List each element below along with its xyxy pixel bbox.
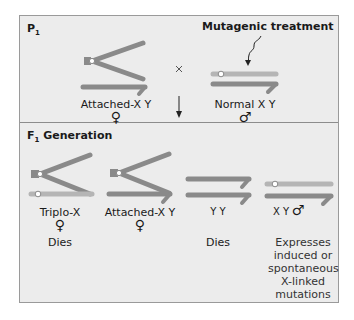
f1-xy-chromosomes	[267, 181, 331, 204]
female-symbol-icon: ♀	[130, 218, 150, 232]
fate-line: spontaneous	[268, 262, 338, 275]
fate-line: induced or	[268, 249, 338, 262]
fate-line: Expresses	[268, 236, 338, 249]
fate-line: X-linked	[268, 275, 338, 288]
f1-yy-label: Y Y	[198, 206, 238, 217]
f1-letter: F	[27, 129, 35, 142]
mutagenic-treatment-label: Mutagenic treatment	[202, 20, 332, 33]
p1-attached-x-chromosome	[92, 43, 143, 79]
male-symbol-icon: ♂	[290, 203, 306, 217]
p1-subscript: 1	[35, 29, 40, 37]
f1-section-label: F1 Generation	[27, 129, 112, 144]
f1-suffix: Generation	[39, 129, 112, 142]
f1-xy-fate: Expresses induced or spontaneous X-linke…	[268, 236, 338, 301]
female-symbol-icon: ♀	[106, 110, 126, 124]
male-symbol-icon: ♂	[235, 110, 255, 124]
p1-letter: P	[27, 22, 35, 35]
f1-attached-x-y-chromosomes	[109, 154, 170, 202]
fate-line: mutations	[268, 288, 338, 301]
p1-section-label: P1	[27, 22, 40, 37]
p1-male-x-chromosome	[213, 71, 276, 77]
female-symbol-icon: ♀	[50, 218, 70, 232]
p1-male-y-chromosome	[213, 84, 276, 92]
mutagen-arrow-icon	[245, 36, 261, 66]
f1-triplo-x-fate: Dies	[30, 236, 90, 249]
f1-yy-chromosomes	[188, 179, 249, 203]
f1-yy-fate: Dies	[198, 236, 238, 249]
cross-icon	[176, 66, 182, 72]
p1-female-y-chromosome	[83, 87, 145, 94]
down-arrow-icon	[176, 96, 182, 118]
f1-triplo-x-chromosomes	[31, 155, 92, 197]
